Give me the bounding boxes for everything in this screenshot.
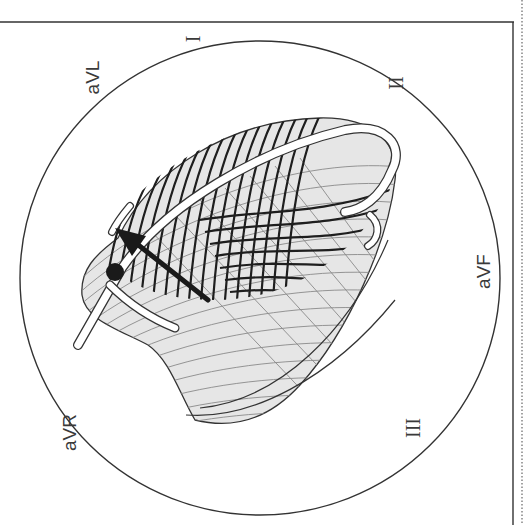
lead-label-ii: II — [386, 76, 406, 89]
lead-label-avf: aVF — [474, 254, 493, 289]
diagram-stage: aVL I II aVF III aVR — [0, 0, 532, 525]
lead-label-i: I — [183, 36, 203, 43]
lead-label-avr: aVR — [60, 414, 79, 451]
conduction-origin-dot — [106, 263, 124, 281]
lead-label-avl: aVL — [83, 61, 102, 95]
lead-label-iii: III — [403, 418, 423, 438]
